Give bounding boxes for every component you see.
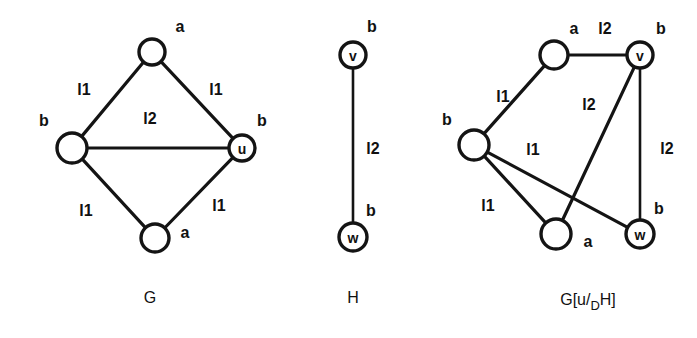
edge-label: l1 — [526, 141, 539, 158]
node-name-label: u — [238, 141, 247, 157]
edge-label: l1 — [79, 202, 92, 219]
node-name-label: w — [347, 230, 359, 246]
graph-node-s-topleft[interactable] — [540, 41, 568, 69]
graph-edge-g-top-g-right — [160, 60, 234, 139]
edge-label: l1 — [481, 197, 494, 214]
node-name-label: v — [349, 48, 357, 64]
graph-edge-g-bottom-g-right — [164, 156, 234, 229]
edge-label: l2 — [598, 20, 611, 37]
node-name-label: v — [636, 48, 644, 64]
edge-label: l1 — [77, 81, 90, 98]
node-attribute-label: a — [570, 20, 579, 37]
edge-label: l2 — [660, 140, 673, 157]
node-attribute-label: b — [442, 111, 452, 128]
caption-main: G[u/ — [560, 291, 591, 308]
caption-subscript: D — [590, 298, 599, 313]
graph-node-g-top[interactable] — [139, 39, 165, 65]
figure-canvas: l1l1l2l1l1abubaGl2vbwbHl1l2l2l2l1l1avbba… — [0, 0, 697, 338]
panel-caption: G[u/DH] — [560, 291, 616, 313]
edge-label: l1 — [209, 81, 222, 98]
node-attribute-label: b — [39, 112, 49, 129]
node-attribute-label: a — [176, 18, 185, 35]
graph-edge-s-left-s-topleft — [483, 64, 546, 135]
node-name-label: w — [634, 227, 646, 243]
node-attribute-label: b — [257, 112, 267, 129]
edge-label: l1 — [212, 197, 225, 214]
panel-caption: H — [347, 289, 359, 306]
panel-gsub: l1l2l2l2l1l1avbbawbG[u/DH] — [442, 20, 674, 313]
edge-label: l2 — [582, 96, 595, 113]
graph-node-s-botleft[interactable] — [541, 219, 571, 249]
edge-label: l2 — [366, 140, 379, 157]
node-attribute-label: b — [656, 20, 666, 37]
panel-caption: G — [144, 289, 156, 306]
graph-node-s-left[interactable] — [459, 130, 489, 160]
node-attribute-label: b — [367, 18, 377, 35]
node-attribute-label: b — [366, 202, 376, 219]
panel-h: l2vbwbH — [339, 18, 380, 306]
panel-g: l1l1l2l1l1abubaG — [39, 18, 267, 306]
graph-edge-g-left-g-top — [81, 61, 145, 138]
graph-node-g-bottom[interactable] — [141, 224, 169, 252]
graph-figure: l1l1l2l1l1abubaGl2vbwbHl1l2l2l2l1l1avbba… — [0, 0, 697, 338]
edge-label: l1 — [496, 88, 509, 105]
edge-label: l2 — [143, 110, 156, 127]
graph-node-g-left[interactable] — [57, 133, 87, 163]
node-attribute-label: a — [584, 233, 593, 250]
caption-suffix: H] — [600, 291, 616, 308]
node-attribute-label: a — [181, 224, 190, 241]
graph-edge-s-left-s-w — [486, 151, 629, 228]
node-attribute-label: b — [654, 200, 664, 217]
